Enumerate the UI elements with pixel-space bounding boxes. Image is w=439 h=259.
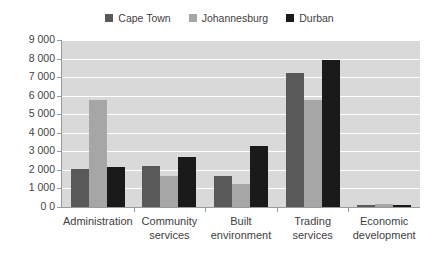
bar[interactable] [322, 60, 340, 207]
bar[interactable] [304, 100, 322, 207]
bar[interactable] [107, 167, 125, 207]
bar-chart: Cape TownJohannesburgDurban 9 0008 0007 … [0, 0, 439, 259]
legend-entry[interactable]: Durban [286, 13, 333, 24]
y-tick-mark [57, 133, 61, 134]
category-separator [277, 207, 278, 212]
bar[interactable] [178, 157, 196, 207]
legend-entry[interactable]: Cape Town [105, 13, 170, 24]
bar[interactable] [393, 205, 411, 207]
y-tick-mark [57, 114, 61, 115]
y-tick-label: 6 000 [3, 90, 55, 101]
x-tick-label-line: Economic [340, 215, 428, 229]
bar[interactable] [214, 176, 232, 207]
bar[interactable] [232, 184, 250, 207]
category-separator [205, 207, 206, 212]
bar[interactable] [142, 166, 160, 207]
y-tick-mark [57, 188, 61, 189]
chart-legend: Cape TownJohannesburgDurban [0, 8, 439, 28]
bar-group [348, 40, 420, 207]
x-tick-label-line: development [340, 229, 428, 243]
bar[interactable] [71, 169, 89, 207]
y-tick-label: 9 000 [3, 34, 55, 45]
y-tick-mark [57, 151, 61, 152]
y-tick-label: 3 000 [3, 145, 55, 156]
legend-label: Johannesburg [202, 13, 269, 24]
y-tick-mark [57, 59, 61, 60]
legend-label: Cape Town [118, 13, 170, 24]
legend-swatch-icon [189, 14, 197, 22]
y-axis-labels: 9 0008 0007 0006 0005 0004 0003 0002 000… [0, 0, 55, 259]
x-axis-line [61, 207, 420, 208]
bar[interactable] [286, 73, 304, 207]
y-tick-label: 0 0 [3, 201, 55, 212]
y-tick-mark [57, 207, 61, 208]
y-tick-mark [57, 40, 61, 41]
y-tick-label: 5 000 [3, 108, 55, 119]
bar-group [205, 40, 277, 207]
bar-group [134, 40, 206, 207]
bar[interactable] [357, 205, 375, 207]
y-tick-label: 8 000 [3, 53, 55, 64]
y-tick-mark [57, 96, 61, 97]
legend-swatch-icon [105, 14, 113, 22]
legend-entry[interactable]: Johannesburg [189, 13, 269, 24]
legend-swatch-icon [286, 14, 294, 22]
x-axis-labels: AdministrationCommunityservicesBuiltenvi… [62, 215, 420, 259]
y-tick-mark [57, 77, 61, 78]
legend-label: Durban [299, 13, 333, 24]
y-tick-label: 2 000 [3, 164, 55, 175]
bar[interactable] [375, 204, 393, 207]
category-separator [134, 207, 135, 212]
bar[interactable] [250, 146, 268, 207]
y-tick-label: 7 000 [3, 71, 55, 82]
bar-group [277, 40, 349, 207]
x-tick-label: Economicdevelopment [340, 215, 428, 243]
y-tick-label: 1 000 [3, 182, 55, 193]
y-tick-label: 4 000 [3, 127, 55, 138]
bar[interactable] [160, 176, 178, 207]
bar-group [62, 40, 134, 207]
y-tick-mark [57, 170, 61, 171]
bars-layer [62, 40, 420, 207]
bar[interactable] [89, 100, 107, 207]
category-separator [348, 207, 349, 212]
